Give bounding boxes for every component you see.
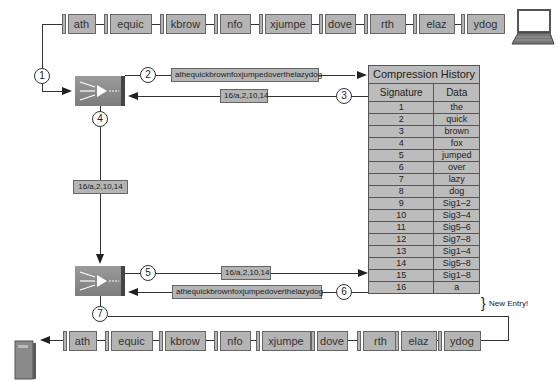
new-entry-annotation: New Entry! [489,299,528,308]
compressed-wan-label: 16/a,2,10,14 [73,180,128,194]
top-packet: ydog [461,14,505,34]
data-cell: Sig5–8 [434,258,480,270]
top-packet: xjumpe [259,14,312,34]
column-header-signature: Signature [369,84,434,102]
table-row: 6over [369,162,480,174]
sig-cell: 10 [369,210,434,222]
data-cell: Sig3–4 [434,210,480,222]
sig-cell: 16 [369,282,434,294]
table-row: 13Sig1–4 [369,246,480,258]
sig-cell: 3 [369,126,434,138]
sig-cell: 15 [369,270,434,282]
data-cell: Sig1–2 [434,198,480,210]
sig-cell: 9 [369,198,434,210]
table-row: 12Sig7–8 [369,234,480,246]
table-row: 5jumped [369,150,480,162]
step-4-marker: 4 [92,111,108,127]
table-row: 9Sig1–2 [369,198,480,210]
sig-cell: 4 [369,138,434,150]
step-7-marker: 7 [92,306,108,322]
laptop-icon [510,8,556,48]
table-row: 14Sig5–8 [369,258,480,270]
data-cell: fox [434,138,480,150]
data-cell: dog [434,186,480,198]
table-row: 10Sig3–4 [369,210,480,222]
data-cell: quick [434,114,480,126]
table-row: 1the [369,102,480,114]
bottom-packet: elaz [395,331,437,351]
data-cell: brown [434,126,480,138]
sig-cell: 13 [369,246,434,258]
server-icon [14,340,36,380]
sig-cell: 12 [369,234,434,246]
data-cell: Sig1–8 [434,270,480,282]
router-icon [75,266,125,296]
compressed-payload-label: 16/a,2,10,14 [221,266,271,280]
sig-cell: 5 [369,150,434,162]
data-cell: lazy [434,174,480,186]
top-packet: rth [364,14,406,34]
table-row: 16a [369,282,480,294]
sig-cell: 14 [369,258,434,270]
step-2-marker: 2 [140,67,156,83]
bottom-packet: kbrow [159,331,206,351]
sig-cell: 1 [369,102,434,114]
uncompressed-payload-label: athequickbrownfoxjumpedoverthelazydog [171,68,319,82]
bottom-packet: xjumpe [256,331,311,351]
data-cell: the [434,102,480,114]
top-packet: nfo [214,14,251,34]
step-6-marker: 6 [336,284,352,300]
top-packet: equic [104,14,152,34]
bottom-packet: nfo [214,331,251,351]
sig-cell: 7 [369,174,434,186]
data-cell: Sig5–6 [434,222,480,234]
top-packet: ath [62,14,96,34]
router-icon [75,76,125,106]
data-cell: Sig7–8 [434,234,480,246]
table-row: 15Sig1–8 [369,270,480,282]
table-row: 8dog [369,186,480,198]
sig-cell: 2 [369,114,434,126]
data-cell: a [434,282,480,294]
table-row: 2quick [369,114,480,126]
bottom-packet: dove [311,331,348,351]
column-header-data: Data [434,84,480,102]
data-cell: Sig1–4 [434,246,480,258]
uncompressed-payload-label: athequickbrownfoxjumpedoverthelazydog [172,285,322,299]
sig-cell: 11 [369,222,434,234]
step-1-marker: 1 [34,68,50,84]
bottom-packet: rth [357,331,399,351]
top-packet: kbrow [160,14,206,34]
top-packet: elaz [413,14,455,34]
table-row: 3brown [369,126,480,138]
compression-history-table: Compression History Signature Data 1the … [368,65,480,294]
data-cell: jumped [434,150,480,162]
table-row: 4fox [369,138,480,150]
table-row: 7lazy [369,174,480,186]
bottom-packet: ydog [438,331,481,351]
brace-icon: } [481,296,486,310]
sig-cell: 8 [369,186,434,198]
table-title: Compression History [369,66,480,84]
step-5-marker: 5 [140,265,156,281]
compressed-payload-label: 16/a,2,10,14 [220,89,268,103]
table-row: 11Sig5–6 [369,222,480,234]
step-3-marker: 3 [336,88,352,104]
bottom-packet: equic [105,331,153,351]
sig-cell: 6 [369,162,434,174]
bottom-packet: ath [63,331,97,351]
data-cell: over [434,162,480,174]
top-packet: dove [319,14,356,34]
